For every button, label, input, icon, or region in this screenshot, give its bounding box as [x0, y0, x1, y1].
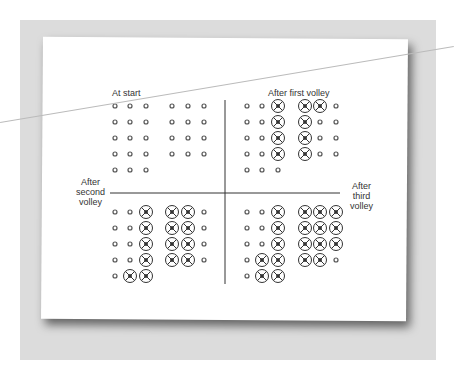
- intact-target-icon: [113, 226, 117, 230]
- hit-target-icon: [314, 238, 327, 251]
- intact-target-icon: [245, 152, 249, 156]
- intact-target-icon: [128, 104, 132, 108]
- hit-target-icon: [272, 238, 285, 251]
- intact-target-icon: [113, 120, 117, 124]
- hit-target-icon: [140, 206, 153, 219]
- hit-target-icon: [299, 238, 312, 251]
- intact-target-icon: [128, 258, 132, 262]
- intact-target-icon: [144, 152, 148, 156]
- intact-target-icon: [318, 152, 322, 156]
- intact-target-icon: [260, 242, 264, 246]
- hit-target-icon: [140, 254, 153, 267]
- intact-target-icon: [260, 210, 264, 214]
- intact-target-icon: [245, 104, 249, 108]
- hit-target-icon: [182, 254, 195, 267]
- intact-target-icon: [260, 120, 264, 124]
- intact-target-icon: [334, 136, 338, 140]
- hit-target-icon: [330, 206, 343, 219]
- hit-target-icon: [299, 222, 312, 235]
- hit-target-icon: [299, 116, 312, 129]
- intact-target-icon: [202, 104, 206, 108]
- hit-target-icon: [256, 270, 269, 283]
- hit-target-icon: [299, 254, 312, 267]
- intact-target-icon: [334, 258, 338, 262]
- intact-target-icon: [186, 120, 190, 124]
- intact-target-icon: [245, 168, 249, 172]
- intact-target-icon: [334, 104, 338, 108]
- hit-target-icon: [272, 270, 285, 283]
- hit-target-icon: [272, 100, 285, 113]
- intact-target-icon: [128, 210, 132, 214]
- hit-target-icon: [272, 206, 285, 219]
- intact-target-icon: [260, 226, 264, 230]
- label-after-third-volley: After third volley: [350, 181, 373, 211]
- hit-target-icon: [299, 206, 312, 219]
- intact-target-icon: [113, 136, 117, 140]
- hit-target-icon: [330, 222, 343, 235]
- intact-target-icon: [128, 152, 132, 156]
- hit-target-icon: [314, 222, 327, 235]
- intact-target-icon: [202, 136, 206, 140]
- intact-target-icon: [113, 152, 117, 156]
- hit-target-icon: [140, 222, 153, 235]
- intact-target-icon: [186, 152, 190, 156]
- intact-target-icon: [245, 242, 249, 246]
- label-at-start: At start: [112, 88, 141, 98]
- intact-target-icon: [113, 274, 117, 278]
- intact-target-icon: [245, 120, 249, 124]
- intact-target-icon: [128, 226, 132, 230]
- label-after-first-volley: After first volley: [268, 88, 330, 98]
- intact-target-icon: [128, 168, 132, 172]
- intact-target-icon: [245, 226, 249, 230]
- intact-target-icon: [186, 136, 190, 140]
- hit-target-icon: [256, 254, 269, 267]
- hit-target-icon: [182, 206, 195, 219]
- intact-target-icon: [202, 258, 206, 262]
- label-after-second-volley: After second volley: [76, 177, 105, 207]
- intact-target-icon: [245, 136, 249, 140]
- intact-target-icon: [113, 210, 117, 214]
- hit-target-icon: [272, 148, 285, 161]
- hit-target-icon: [330, 238, 343, 251]
- intact-target-icon: [170, 120, 174, 124]
- intact-target-icon: [113, 258, 117, 262]
- intact-target-icon: [170, 152, 174, 156]
- intact-target-icon: [128, 242, 132, 246]
- intact-target-icon: [144, 136, 148, 140]
- hit-target-icon: [272, 254, 285, 267]
- hit-target-icon: [299, 148, 312, 161]
- intact-target-icon: [260, 104, 264, 108]
- intact-target-icon: [318, 120, 322, 124]
- intact-target-icon: [113, 104, 117, 108]
- hit-target-icon: [140, 270, 153, 283]
- intact-target-icon: [202, 152, 206, 156]
- intact-target-icon: [113, 242, 117, 246]
- hit-target-icon: [314, 206, 327, 219]
- intact-target-icon: [318, 136, 322, 140]
- intact-target-icon: [144, 104, 148, 108]
- intact-target-icon: [202, 242, 206, 246]
- hit-target-icon: [299, 100, 312, 113]
- hit-target-icon: [272, 222, 285, 235]
- hit-target-icon: [272, 132, 285, 145]
- hit-target-icon: [314, 100, 327, 113]
- intact-target-icon: [334, 120, 338, 124]
- intact-target-icon: [245, 210, 249, 214]
- intact-target-icon: [334, 152, 338, 156]
- intact-target-icon: [202, 210, 206, 214]
- intact-target-icon: [113, 168, 117, 172]
- hit-target-icon: [124, 270, 137, 283]
- intact-target-icon: [245, 274, 249, 278]
- intact-target-icon: [260, 168, 264, 172]
- hit-target-icon: [166, 206, 179, 219]
- hit-target-icon: [166, 238, 179, 251]
- intact-target-icon: [128, 120, 132, 124]
- hit-target-icon: [314, 254, 327, 267]
- intact-target-icon: [144, 168, 148, 172]
- hit-target-icon: [182, 238, 195, 251]
- hit-target-icon: [166, 254, 179, 267]
- hit-target-icon: [140, 238, 153, 251]
- intact-target-icon: [276, 168, 280, 172]
- hit-target-icon: [166, 222, 179, 235]
- hit-target-icon: [299, 132, 312, 145]
